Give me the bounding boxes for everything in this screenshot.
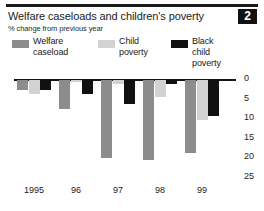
y-axis-tick-5: 5 xyxy=(244,93,249,103)
chart-subtitle: % change from previous year xyxy=(8,24,103,33)
figure-number-badge: 2 xyxy=(238,9,257,24)
legend-label-welfare-caseload: Welfare caseload xyxy=(33,36,68,58)
bar-99-welfare-caseload xyxy=(185,80,196,153)
chart-legend: Welfare caseload Child poverty Black chi… xyxy=(8,38,258,66)
bar-97-child-poverty xyxy=(113,80,124,84)
top-rule-divider xyxy=(6,4,258,7)
legend-swatch-black-child-poverty xyxy=(171,40,188,48)
bar-98-black-child-poverty xyxy=(166,80,177,84)
y-axis-tick-20: 20 xyxy=(244,151,254,161)
x-axis-label-97: 97 xyxy=(95,185,141,195)
x-axis-label-99: 99 xyxy=(179,185,225,195)
bar-97-black-child-poverty xyxy=(124,80,135,104)
bar-96-black-child-poverty xyxy=(82,80,93,94)
x-axis-label-96: 96 xyxy=(53,185,99,195)
bar-98-child-poverty xyxy=(155,80,166,97)
y-axis-tick-10: 10 xyxy=(244,112,254,122)
legend-swatch-welfare-caseload xyxy=(12,40,29,48)
bar-98-welfare-caseload xyxy=(143,80,154,160)
bar-99-child-poverty xyxy=(197,80,208,120)
y-axis-tick-25: 25 xyxy=(244,171,254,181)
bar-1995-child-poverty xyxy=(29,80,40,94)
bar-97-welfare-caseload xyxy=(101,80,112,158)
bar-1995-welfare-caseload xyxy=(17,80,28,90)
y-axis-tick-0: 0 xyxy=(244,73,249,83)
x-axis-label-1995: 1995 xyxy=(11,185,57,195)
y-axis-tick-15: 15 xyxy=(244,132,254,142)
legend-swatch-child-poverty xyxy=(98,40,115,48)
bar-96-child-poverty xyxy=(71,80,82,82)
plot-area: 1995969798990510152025 xyxy=(14,79,226,182)
legend-label-black-child-poverty: Black child poverty xyxy=(192,36,221,69)
bar-96-welfare-caseload xyxy=(59,80,70,109)
bar-1995-black-child-poverty xyxy=(40,80,51,90)
x-axis-label-98: 98 xyxy=(137,185,183,195)
legend-label-child-poverty: Child poverty xyxy=(119,36,148,58)
chart-figure: 2 Welfare caseloads and children's pover… xyxy=(0,0,264,211)
bar-99-black-child-poverty xyxy=(208,80,219,116)
chart-title: Welfare caseloads and children's poverty xyxy=(8,10,204,22)
